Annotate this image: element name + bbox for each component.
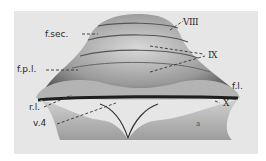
label-x: X	[223, 99, 229, 108]
label-r-l: r.l.	[29, 103, 40, 112]
leader-x	[215, 101, 220, 103]
medulla	[40, 100, 238, 140]
label-ix: IX	[208, 51, 217, 60]
label-viii: VIII	[183, 18, 198, 27]
brainstem-illustration	[0, 0, 266, 161]
label-f-l: f.l.	[232, 82, 243, 91]
label-v4: v.4	[33, 119, 46, 128]
label-f-sec: f.sec.	[45, 30, 68, 39]
label-a: a	[196, 120, 200, 129]
label-f-p-l: f.p.l.	[17, 65, 36, 74]
